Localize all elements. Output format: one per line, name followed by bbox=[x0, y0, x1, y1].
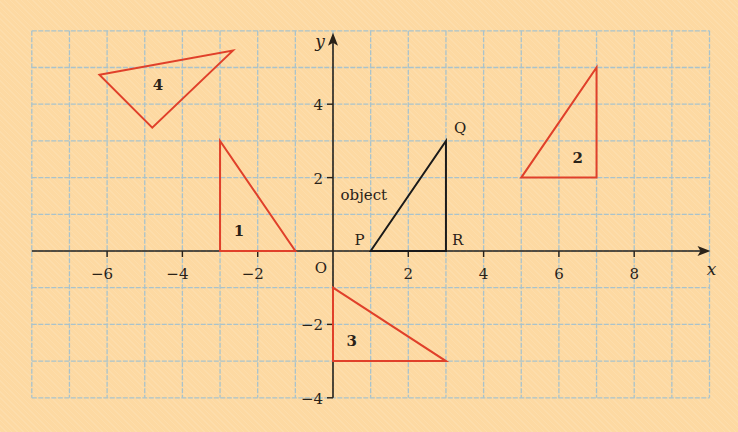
coordinate-plane: −6−4−22468−4−224xyO1234PQRobject bbox=[0, 0, 738, 432]
x-tick-label: −6 bbox=[91, 265, 113, 283]
x-axis-label: x bbox=[707, 259, 717, 279]
coordinate-diagram: −6−4−22468−4−224xyO1234PQRobject bbox=[0, 0, 738, 432]
triangles bbox=[100, 51, 597, 361]
grid-lines bbox=[32, 31, 710, 398]
origin-label: O bbox=[315, 259, 327, 277]
x-tick-label: 2 bbox=[404, 265, 414, 283]
y-axis-label: y bbox=[314, 31, 325, 51]
object-label: object bbox=[341, 186, 388, 204]
y-tick-label: 4 bbox=[313, 96, 323, 114]
x-tick-label: 6 bbox=[554, 265, 564, 283]
image-label-1: 1 bbox=[234, 222, 244, 240]
x-tick-label: −4 bbox=[166, 265, 188, 283]
y-tick-label: −2 bbox=[301, 316, 323, 334]
x-tick-label: 8 bbox=[629, 265, 639, 283]
y-tick-label: 2 bbox=[313, 170, 323, 188]
vertex-label-Q: Q bbox=[454, 119, 466, 137]
image-label-4: 4 bbox=[153, 76, 163, 94]
vertex-label-R: R bbox=[452, 231, 464, 249]
labels: −6−4−22468−4−224xyO1234PQRobject bbox=[91, 31, 717, 408]
y-tick-label: −4 bbox=[301, 390, 323, 408]
vertex-label-P: P bbox=[355, 231, 365, 249]
image-triangle-4 bbox=[100, 51, 233, 128]
x-tick-label: −2 bbox=[242, 265, 264, 283]
image-label-2: 2 bbox=[573, 149, 583, 167]
image-label-3: 3 bbox=[347, 332, 357, 350]
x-tick-label: 4 bbox=[479, 265, 489, 283]
